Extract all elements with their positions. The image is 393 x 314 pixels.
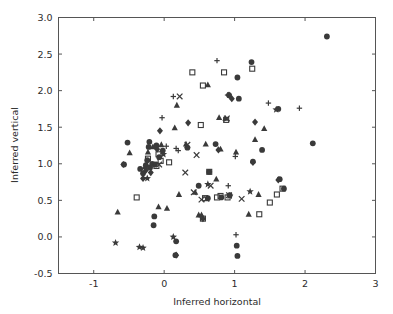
data-point-plus [226, 183, 231, 188]
data-point-square [267, 200, 272, 205]
data-point-diamond [157, 127, 163, 134]
data-point-triangle [203, 141, 209, 147]
y-axis-label: Inferred vertical [9, 107, 20, 183]
data-point-triangle [216, 114, 222, 120]
y-tick-label: 2.5 [37, 49, 52, 60]
x-tick-label: 1 [232, 278, 238, 289]
data-point-triangle [261, 125, 267, 131]
data-point-triangle [158, 141, 164, 147]
x-tick-label: 0 [161, 278, 167, 289]
data-point-circle [310, 140, 316, 146]
scatter-plot-figure: -10123 -0.50.00.51.01.52.02.53.0 Inferre… [0, 0, 393, 314]
data-point-diamond [148, 169, 154, 176]
x-tick-label: 2 [302, 278, 308, 289]
data-point-square [200, 83, 205, 88]
y-tick-label: 0.5 [37, 195, 52, 206]
data-point-star [112, 239, 119, 246]
data-point-triangle [155, 204, 161, 210]
data-point-x [183, 170, 189, 176]
y-tick-label: 3.0 [37, 12, 52, 23]
data-point-triangle [145, 149, 151, 155]
data-point-circle [196, 183, 202, 189]
data-point-star [246, 188, 253, 195]
y-tick-label: 1.5 [37, 122, 52, 133]
data-point-square [190, 70, 195, 75]
data-point-square [222, 70, 227, 75]
data-point-circle [259, 147, 265, 153]
y-tick-label: -0.5 [34, 268, 53, 279]
data-point-square [167, 160, 172, 165]
data-points-layer [112, 34, 330, 259]
data-point-circle [324, 34, 330, 40]
data-point-triangle [176, 191, 182, 197]
data-point-x [239, 196, 245, 202]
data-point-plus [233, 154, 238, 159]
x-axis-label: Inferred horizontal [173, 296, 261, 307]
data-point-plus [164, 144, 169, 149]
data-point-triangle [246, 211, 252, 217]
data-point-diamond [252, 118, 258, 125]
data-point-triangle [127, 149, 133, 155]
data-point-circle [173, 238, 179, 244]
data-point-plus [171, 94, 176, 99]
data-point-x [177, 94, 183, 100]
data-point-plus [266, 100, 271, 105]
data-point-plus [297, 105, 302, 110]
data-point-plus [214, 58, 219, 63]
data-point-triangle [233, 149, 239, 155]
data-point-diamond [185, 119, 191, 126]
data-point-square [134, 195, 139, 200]
data-point-square [250, 66, 255, 71]
data-point-circle [249, 59, 255, 65]
data-point-x [194, 152, 200, 158]
data-point-x [199, 197, 205, 203]
data-point-circle [236, 96, 242, 102]
data-point-circle [151, 214, 157, 220]
x-tick-label: -1 [89, 278, 98, 289]
data-point-triangle [172, 125, 178, 131]
data-point-triangle [213, 176, 219, 182]
data-point-square [257, 212, 262, 217]
x-tick-label: 3 [372, 278, 378, 289]
data-point-circle [125, 140, 131, 146]
data-point-triangle [255, 191, 261, 197]
data-point-triangle [174, 102, 180, 108]
data-point-circle [151, 222, 157, 228]
data-point-plus [233, 232, 238, 237]
data-point-circle [235, 75, 241, 81]
data-point-circle [235, 253, 241, 259]
data-point-triangle [164, 205, 170, 211]
data-point-star [139, 244, 146, 251]
data-point-triangle [252, 136, 258, 142]
y-tick-label: 1.0 [37, 158, 52, 169]
data-point-square [198, 123, 203, 128]
data-point-square [274, 192, 279, 197]
data-point-circle [146, 139, 152, 145]
y-tick-label: 2.0 [37, 85, 52, 96]
data-point-triangle [115, 209, 121, 215]
plot-canvas: -10123 -0.50.00.51.01.52.02.53.0 Inferre… [0, 0, 393, 314]
data-point-circle [213, 141, 219, 147]
data-point-circle [234, 243, 240, 249]
data-point-plus [159, 115, 164, 120]
y-tick-label: 0.0 [37, 231, 52, 242]
